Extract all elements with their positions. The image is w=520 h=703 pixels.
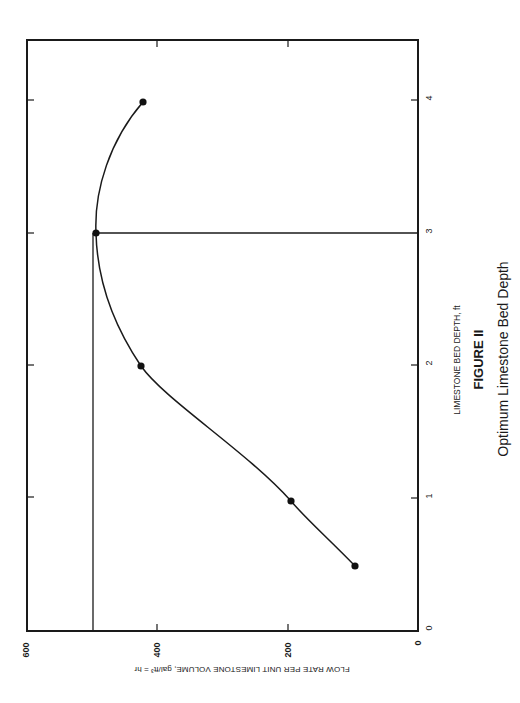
y-tick-label: 600: [21, 638, 31, 662]
data-point: [287, 497, 294, 504]
x-tick-label: 1: [424, 489, 434, 503]
plot-frame: [27, 40, 418, 631]
x-tick-label: 2: [424, 356, 434, 370]
data-point: [351, 562, 358, 569]
data-point: [137, 362, 144, 369]
x-tick-label: 3: [424, 224, 434, 238]
x-tick-label: 4: [424, 91, 434, 105]
y-axis-label: FLOW RATE PER UNIT LIMESTONE VOLUME, gal…: [112, 665, 372, 674]
figure-number: FIGURE II: [471, 310, 486, 410]
y-tick-label: 0: [413, 631, 423, 655]
data-point: [139, 98, 146, 105]
figure-caption: Optimum Limestone Bed Depth: [495, 259, 511, 459]
fitted-curve: [96, 102, 355, 566]
chart-canvas: [0, 0, 520, 703]
y-tick-label: 200: [283, 638, 293, 662]
y-axis-ticks: [157, 40, 288, 631]
data-points: [92, 98, 358, 569]
y-tick-label: 400: [152, 638, 162, 662]
x-tick-label: 0: [424, 621, 434, 635]
data-point: [92, 229, 99, 236]
x-axis-label: LIMESTONE BED DEPTH, ft: [452, 285, 462, 435]
